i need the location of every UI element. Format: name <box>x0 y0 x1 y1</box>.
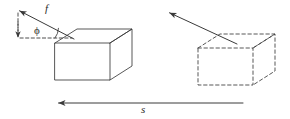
dashed-cube <box>198 34 275 85</box>
figure-root: f ϕ s <box>0 0 290 119</box>
force-arrow-left <box>20 11 75 39</box>
angle-label: ϕ <box>34 25 40 36</box>
force-arrow-right <box>170 13 238 44</box>
displacement-label: s <box>141 104 145 115</box>
force-label: f <box>45 3 48 14</box>
diagram-canvas <box>0 0 290 119</box>
solid-cube <box>55 29 132 80</box>
